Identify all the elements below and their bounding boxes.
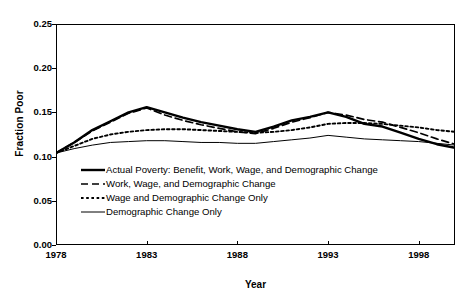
legend-item-label: Wage and Demographic Change Only	[106, 192, 268, 204]
x-axis-tick-mark	[419, 241, 420, 245]
y-axis-tick-label: 0.25	[18, 19, 52, 29]
y-axis-tick-mark	[52, 245, 56, 246]
legend-line-swatch	[80, 206, 106, 218]
legend-item-label: Demographic Change Only	[106, 206, 222, 218]
x-axis-title: Year	[56, 279, 455, 290]
legend-item-label: Actual Poverty: Benefit, Work, Wage, and…	[106, 164, 378, 176]
x-axis-tick-label: 1978	[26, 249, 86, 260]
x-axis-tick-label: 1998	[389, 249, 449, 260]
x-axis-tick-mark	[147, 241, 148, 245]
x-axis-tick-label: 1983	[117, 249, 177, 260]
chart-screenshot: 0.000.050.100.150.200.25 197819831988199…	[0, 0, 464, 303]
series-line	[56, 107, 455, 153]
x-axis-tick-labels: 19781983198819931998	[0, 249, 464, 263]
legend-item-label: Work, Wage, and Demographic Change	[106, 178, 276, 190]
x-axis-tick-mark	[56, 241, 57, 245]
legend-line-swatch	[80, 192, 106, 204]
y-axis-tick-mark	[52, 157, 56, 158]
series-line	[56, 123, 455, 153]
y-axis-tick-label: 0.05	[18, 196, 52, 206]
x-axis-tick-mark	[237, 241, 238, 245]
y-axis-tick-mark	[52, 112, 56, 113]
series-line	[56, 135, 455, 153]
legend-item: Work, Wage, and Demographic Change	[80, 177, 410, 191]
y-axis-tick-mark	[52, 24, 56, 25]
x-axis-tick-label: 1988	[207, 249, 267, 260]
legend-item: Wage and Demographic Change Only	[80, 191, 410, 205]
legend-item: Demographic Change Only	[80, 205, 410, 219]
y-axis-tick-mark	[52, 201, 56, 202]
legend-item: Actual Poverty: Benefit, Work, Wage, and…	[80, 163, 410, 177]
y-axis-title: Fraction Poor	[14, 69, 25, 179]
chart-legend: Actual Poverty: Benefit, Work, Wage, and…	[80, 163, 410, 219]
x-axis-tick-label: 1993	[298, 249, 358, 260]
y-axis-tick-mark	[52, 68, 56, 69]
legend-line-swatch	[80, 178, 106, 190]
legend-line-swatch	[80, 164, 106, 176]
x-axis-tick-mark	[328, 241, 329, 245]
